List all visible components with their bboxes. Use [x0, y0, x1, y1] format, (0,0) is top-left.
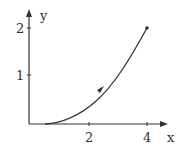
endpoint-dot [145, 26, 149, 30]
y-tick-label-1: 1 [16, 68, 24, 83]
chart: 2 4 1 2 x y [0, 0, 186, 152]
x-tick-label-4: 4 [143, 130, 151, 145]
direction-marker-icon [97, 86, 104, 93]
x-axis-label: x [167, 130, 175, 145]
y-tick-label-2: 2 [16, 21, 24, 36]
x-tick-label-2: 2 [85, 130, 93, 145]
curve-line [45, 28, 147, 124]
x-axis-arrow-icon [160, 121, 168, 127]
y-axis-arrow-icon [26, 9, 32, 17]
y-axis-label: y [39, 8, 48, 23]
